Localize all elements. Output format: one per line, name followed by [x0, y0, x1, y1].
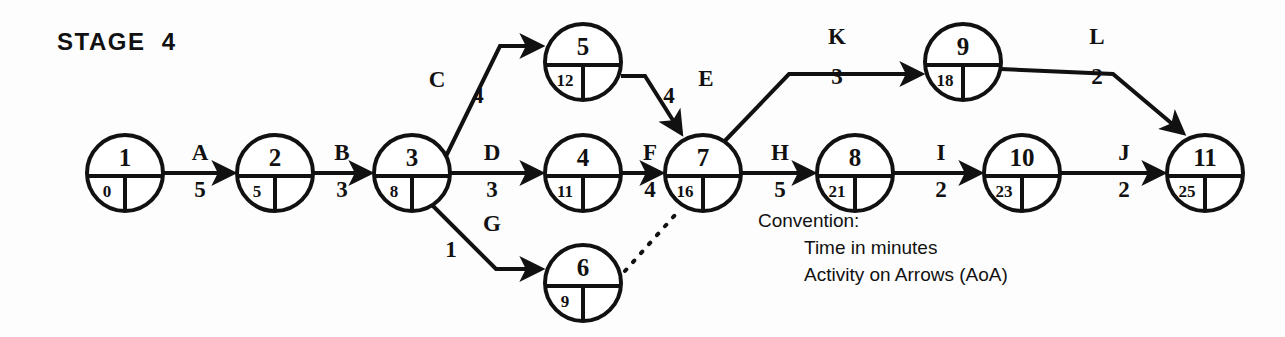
node-10[interactable]: 1023 — [984, 135, 1060, 211]
node-event-number: 7 — [697, 144, 710, 171]
node-earliest-time: 8 — [390, 182, 399, 201]
node-event-number: 3 — [406, 144, 419, 171]
activity-duration-E: 4 — [663, 83, 675, 108]
node-7[interactable]: 716 — [665, 135, 741, 211]
activity-duration-L: 2 — [1091, 64, 1103, 89]
node-2[interactable]: 25 — [237, 135, 313, 211]
activity-duration-F: 4 — [644, 177, 656, 202]
activity-label-L: L — [1089, 24, 1104, 49]
activity-label-H: H — [771, 140, 789, 165]
activity-label-C: C — [429, 67, 446, 92]
node-earliest-time: 0 — [103, 182, 112, 201]
node-6[interactable]: 69 — [545, 245, 621, 321]
node-earliest-time: 23 — [996, 182, 1013, 201]
activity-label-E: E — [698, 66, 713, 91]
activity-duration-D: 3 — [486, 177, 498, 202]
dummy-link-6-7 — [625, 215, 675, 271]
node-11[interactable]: 1125 — [1167, 135, 1243, 211]
node-earliest-time: 9 — [561, 292, 570, 311]
activity-duration-A: 5 — [194, 177, 206, 202]
activity-label-I: I — [937, 140, 946, 165]
edge-K — [719, 74, 921, 147]
node-earliest-time: 5 — [253, 182, 262, 201]
node-earliest-time: 16 — [677, 182, 694, 201]
node-3[interactable]: 38 — [374, 135, 450, 211]
convention-note: Convention: Time in minutes Activity on … — [758, 208, 1008, 289]
activity-label-J: J — [1118, 140, 1130, 165]
node-event-number: 8 — [849, 144, 862, 171]
node-1[interactable]: 10 — [87, 135, 163, 211]
activity-label-G: G — [483, 211, 501, 236]
activity-duration-H: 5 — [774, 177, 786, 202]
node-event-number: 4 — [577, 144, 590, 171]
activity-duration-C: 4 — [472, 83, 484, 108]
node-5[interactable]: 512 — [545, 24, 621, 100]
activity-duration-K: 3 — [831, 64, 843, 89]
node-earliest-time: 12 — [557, 71, 574, 90]
node-event-number: 5 — [577, 33, 590, 60]
node-earliest-time: 18 — [937, 71, 954, 90]
node-9[interactable]: 918 — [925, 24, 1001, 100]
node-earliest-time: 25 — [1179, 182, 1196, 201]
network-diagram: 1025384115126971682191810231125 A5B3C4D3… — [0, 0, 1285, 337]
node-event-number: 1 — [119, 144, 132, 171]
diagram-canvas: STAGE 4 1025384115126971682191810231125 … — [0, 0, 1285, 337]
node-event-number: 6 — [577, 254, 590, 281]
node-earliest-time: 11 — [557, 182, 573, 201]
convention-heading: Convention: — [758, 208, 1008, 235]
activity-label-D: D — [484, 140, 501, 165]
convention-line-time: Time in minutes — [804, 235, 1008, 262]
activity-duration-G: 1 — [445, 237, 457, 262]
node-8[interactable]: 821 — [817, 135, 893, 211]
node-event-number: 11 — [1193, 144, 1217, 171]
activity-label-A: A — [192, 140, 209, 165]
node-event-number: 9 — [957, 33, 970, 60]
activity-label-F: F — [643, 140, 657, 165]
node-4[interactable]: 411 — [545, 135, 621, 211]
activity-label-K: K — [828, 24, 846, 49]
node-earliest-time: 21 — [829, 182, 846, 201]
activity-duration-B: 3 — [336, 177, 348, 202]
node-event-number: 2 — [269, 144, 282, 171]
activity-label-B: B — [334, 140, 349, 165]
activity-duration-I: 2 — [935, 177, 947, 202]
node-event-number: 10 — [1010, 144, 1035, 171]
activity-duration-J: 2 — [1118, 177, 1130, 202]
convention-line-aoa: Activity on Arrows (AoA) — [804, 262, 1008, 289]
